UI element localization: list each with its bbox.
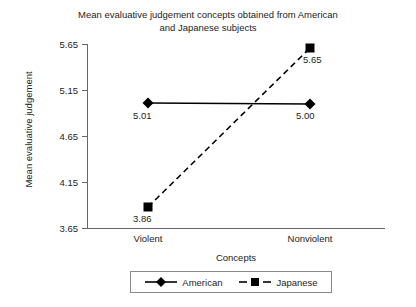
legend-label-american: American [182, 277, 222, 288]
marker-american-violent [143, 98, 154, 109]
series-line-japanese [148, 48, 310, 207]
point-label-japanese-nonviolent: 5.65 [303, 54, 322, 65]
y-tick-label-4.65-wrap: 4.65 [32, 131, 78, 142]
y-tick-label-4.15-wrap: 4.15 [32, 177, 78, 188]
x-axis-line [87, 228, 385, 229]
marker-japanese-violent [144, 203, 153, 212]
marker-japanese-nonviolent [306, 44, 315, 53]
y-tick-mark-5.65 [82, 44, 87, 45]
x-tick-label-violent: Violent [103, 233, 193, 244]
y-tick-label-4.65: 4.65 [32, 131, 78, 142]
x-tick-label-nonviolent: Nonviolent [265, 233, 355, 244]
series-line-american [148, 103, 310, 104]
y-tick-label-5.65: 5.65 [32, 39, 78, 50]
x-axis-title: Concepts [87, 252, 385, 263]
legend-entry-japanese: Japanese [238, 276, 317, 288]
y-tick-label-5.15: 5.15 [32, 85, 78, 96]
legend-entry-american: American [144, 276, 222, 288]
point-label-american-violent: 5.01 [133, 110, 152, 121]
y-tick-mark-4.65 [82, 136, 87, 137]
y-tick-label-4.15: 4.15 [32, 177, 78, 188]
point-label-american-nonviolent: 5.00 [296, 110, 315, 121]
chart-title: Mean evaluative judgement concepts obtai… [58, 8, 358, 34]
legend-label-japanese: Japanese [276, 277, 317, 288]
legend-swatch-american-icon [144, 276, 178, 288]
legend-swatch-japanese-icon [238, 276, 272, 288]
chart-legend: American Japanese [130, 271, 332, 293]
chart-title-line-1: Mean evaluative judgement concepts obtai… [58, 8, 358, 21]
y-tick-label-5.15-wrap: 5.15 [32, 85, 78, 96]
y-tick-label-3.65: 3.65 [32, 223, 78, 234]
y-axis-line [87, 44, 88, 229]
chart-title-line-2: and Japanese subjects [58, 21, 358, 34]
y-tick-mark-4.15 [82, 182, 87, 183]
y-tick-mark-3.65 [82, 228, 87, 229]
y-axis-title: Mean evaluative judgement [23, 60, 34, 200]
marker-american-nonviolent [305, 99, 316, 110]
chart-figure: Mean evaluative judgement concepts obtai… [0, 0, 416, 307]
y-tick-mark-5.15 [82, 90, 87, 91]
y-tick-label-5.65-wrap: 5.65 [32, 39, 78, 50]
y-tick-label-3.65-wrap: 3.65 [32, 223, 78, 234]
point-label-japanese-violent: 3.86 [133, 213, 152, 224]
